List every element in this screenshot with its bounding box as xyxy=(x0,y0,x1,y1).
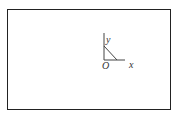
x-axis-label: x xyxy=(128,59,134,70)
origin-label: O xyxy=(102,60,109,71)
diagonal-segment xyxy=(104,46,117,60)
y-axis-label: y xyxy=(105,34,111,45)
coordinate-diagram: y O x xyxy=(0,0,180,117)
